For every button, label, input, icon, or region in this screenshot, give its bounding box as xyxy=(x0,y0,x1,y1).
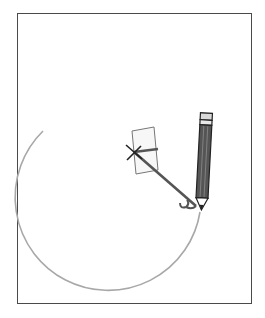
drawn-arc xyxy=(15,131,200,290)
pencil-icon xyxy=(195,113,212,210)
compass-arm xyxy=(134,152,196,206)
compass-diagram xyxy=(0,0,265,318)
